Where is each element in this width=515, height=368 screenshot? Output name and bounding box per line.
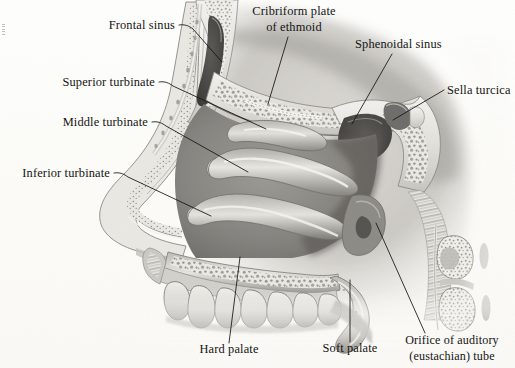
anatomy-figure: Frontal sinus Cribriform plate of ethmoi… xyxy=(0,0,515,368)
paper-grain xyxy=(0,0,515,368)
label-frontal-sinus: Frontal sinus xyxy=(109,18,175,32)
label-soft-palate: Soft palate xyxy=(323,341,378,355)
label-hard-palate: Hard palate xyxy=(199,342,258,356)
label-orifice-auditory-tube-line2: (eustachian) tube xyxy=(409,349,495,363)
label-sella-turcica: Sella turcica xyxy=(447,83,511,97)
illustration-artwork xyxy=(0,0,515,368)
scan-edge-artifact xyxy=(2,24,5,36)
label-cribriform-plate-line1: Cribriform plate xyxy=(252,4,336,18)
label-orifice-auditory-tube-line1: Orifice of auditory xyxy=(405,333,499,347)
label-sphenoidal-sinus: Sphenoidal sinus xyxy=(355,37,442,51)
nasal-cavity-illustration: Frontal sinus Cribriform plate of ethmoi… xyxy=(0,0,515,368)
label-inferior-turbinate: Inferior turbinate xyxy=(22,166,110,180)
label-superior-turbinate: Superior turbinate xyxy=(62,75,155,89)
label-middle-turbinate: Middle turbinate xyxy=(63,115,149,129)
label-cribriform-plate-line2: of ethmoid xyxy=(266,20,322,34)
